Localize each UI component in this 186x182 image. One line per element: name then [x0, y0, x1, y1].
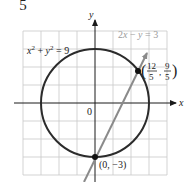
graph-figure: x y 0 x2 + y2 = 9 2x − y = 3 (0, −3) ( 1… [0, 0, 186, 182]
svg-text:): ) [172, 62, 177, 80]
origin-label: 0 [87, 106, 92, 117]
line-equation-label: 2x − y = 3 [118, 29, 158, 40]
point-x-denominator: 5 [149, 72, 154, 82]
point-y-denominator: 5 [165, 72, 170, 82]
point-label-bottom: (0, −3) [99, 159, 126, 171]
svg-text:(: ( [141, 62, 146, 80]
x-axis-label: x [178, 97, 184, 108]
intersection-point-bottom [92, 154, 98, 160]
circle-equation-label: x2 + y2 = 9 [26, 44, 69, 56]
y-axis-label: y [88, 9, 94, 20]
point-x-numerator: 12 [147, 61, 156, 71]
point-y-numerator: 9 [165, 61, 170, 71]
point-label-right: ( 12 5 , 9 5 ) [141, 61, 177, 82]
svg-text:,: , [159, 67, 161, 77]
